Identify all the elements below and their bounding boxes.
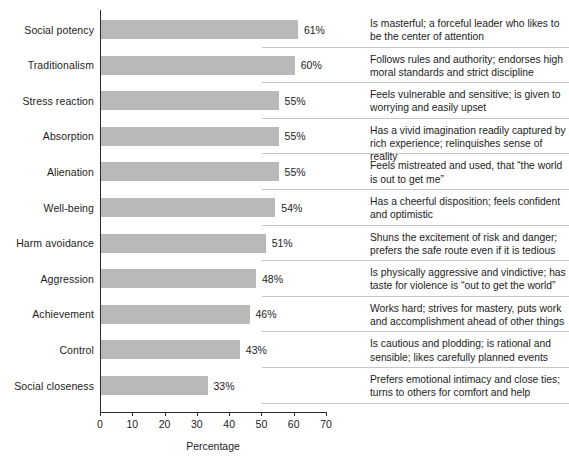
- x-tick-label: 60: [288, 418, 300, 430]
- trait-description: Prefers emotional intimacy and close tie…: [370, 373, 569, 399]
- bar: [101, 56, 295, 75]
- bar-value-label: 55%: [285, 166, 306, 178]
- trait-description: Is masterful; a forceful leader who like…: [370, 17, 569, 43]
- row-divider: [262, 331, 569, 332]
- x-tick-label: 0: [97, 418, 103, 430]
- row-divider: [262, 367, 569, 368]
- bar: [101, 198, 275, 217]
- category-label: Aggression: [0, 273, 94, 285]
- bar: [101, 376, 208, 395]
- x-tick-mark: [132, 412, 133, 416]
- x-tick-mark: [165, 412, 166, 416]
- x-tick-mark: [197, 412, 198, 416]
- category-label: Well-being: [0, 202, 94, 214]
- x-tick-mark: [261, 412, 262, 416]
- x-tick-label: 20: [159, 418, 171, 430]
- category-label: Achievement: [0, 308, 94, 320]
- x-tick-mark: [294, 412, 295, 416]
- trait-description: Follows rules and authority; endorses hi…: [370, 53, 569, 79]
- x-axis-title: Percentage: [100, 440, 326, 452]
- category-label: Stress reaction: [0, 95, 94, 107]
- x-tick-mark: [100, 412, 101, 416]
- category-label: Harm avoidance: [0, 237, 94, 249]
- bar-value-label: 33%: [214, 380, 235, 392]
- bar: [101, 340, 240, 359]
- x-axis-line: [100, 412, 326, 413]
- bar-value-label: 61%: [304, 24, 325, 36]
- category-label: Control: [0, 344, 94, 356]
- category-label: Absorption: [0, 130, 94, 142]
- bar-value-label: 46%: [256, 308, 277, 320]
- x-tick-label: 30: [191, 418, 203, 430]
- x-tick-label: 10: [126, 418, 138, 430]
- bar: [101, 91, 279, 110]
- x-tick-label: 50: [256, 418, 268, 430]
- trait-description: Shuns the excitement of risk and danger;…: [370, 231, 569, 257]
- row-divider: [262, 225, 569, 226]
- bar-value-label: 55%: [285, 95, 306, 107]
- trait-description: Is cautious and plodding; is rational an…: [370, 337, 569, 363]
- row-divider: [262, 296, 569, 297]
- row-divider: [262, 260, 569, 261]
- bar-chart: 010203040506070 Percentage Social potenc…: [0, 0, 569, 466]
- trait-description: Works hard; strives for mastery, puts wo…: [370, 302, 569, 328]
- bar-value-label: 54%: [281, 202, 302, 214]
- x-tick-label: 70: [320, 418, 332, 430]
- x-tick-label: 40: [223, 418, 235, 430]
- bar: [101, 305, 250, 324]
- category-label: Social closeness: [0, 380, 94, 392]
- category-label: Traditionalism: [0, 59, 94, 71]
- bar-value-label: 55%: [285, 130, 306, 142]
- bar: [101, 127, 279, 146]
- bar: [101, 234, 266, 253]
- trait-description: Feels mistreated and used, that “the wor…: [370, 159, 569, 185]
- row-divider: [262, 189, 569, 190]
- bar: [101, 269, 256, 288]
- category-label: Social potency: [0, 24, 94, 36]
- trait-description: Is physically aggressive and vindictive;…: [370, 266, 569, 292]
- row-divider: [262, 403, 569, 404]
- bar-value-label: 51%: [272, 237, 293, 249]
- x-tick-mark: [326, 412, 327, 416]
- row-divider: [262, 118, 569, 119]
- trait-description: Has a cheerful disposition; feels confid…: [370, 195, 569, 221]
- x-tick-mark: [229, 412, 230, 416]
- row-divider: [262, 82, 569, 83]
- bar-value-label: 60%: [301, 59, 322, 71]
- bar-value-label: 48%: [262, 273, 283, 285]
- bar-value-label: 43%: [246, 344, 267, 356]
- trait-description: Has a vivid imagination readily captured…: [370, 124, 569, 164]
- bar: [101, 20, 298, 39]
- category-label: Alienation: [0, 166, 94, 178]
- trait-description: Feels vulnerable and sensitive; is given…: [370, 88, 569, 114]
- row-divider: [262, 47, 569, 48]
- bar: [101, 162, 279, 181]
